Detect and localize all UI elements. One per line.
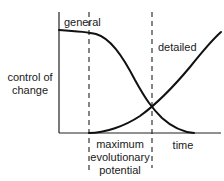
evolution-control-diagram: general detailed control of change time …: [0, 0, 224, 181]
x-axis-label: time: [173, 139, 194, 151]
annotation-line3: potential: [99, 164, 141, 176]
label-detailed: detailed: [158, 41, 197, 53]
annotation-line2: evolutionary: [90, 151, 150, 163]
curve-detailed: [89, 32, 221, 133]
y-axis-label-line2: change: [12, 84, 48, 96]
label-general: general: [64, 16, 101, 28]
y-axis-label-line1: control of: [7, 71, 53, 83]
annotation-line1: maximum: [96, 138, 144, 150]
